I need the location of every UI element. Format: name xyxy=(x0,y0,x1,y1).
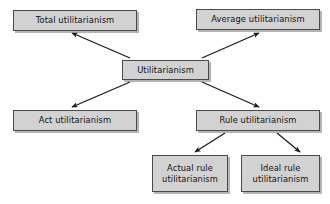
edge-utilitarianism-to-rule xyxy=(202,82,259,107)
node-average-utilitarianism[interactable]: Average utilitarianism xyxy=(196,9,320,30)
edge-rule-to-ideal-rule xyxy=(277,133,300,152)
node-label: Utilitarianism xyxy=(137,65,194,76)
node-ideal-rule-utilitarianism[interactable]: Ideal rule utilitarianism xyxy=(241,155,320,192)
node-utilitarianism[interactable]: Utilitarianism xyxy=(122,60,209,80)
node-label: Rule utilitarianism xyxy=(219,115,296,126)
edge-utilitarianism-to-average xyxy=(202,33,259,58)
node-label: Average utilitarianism xyxy=(211,14,304,25)
node-rule-utilitarianism[interactable]: Rule utilitarianism xyxy=(196,110,320,131)
node-act-utilitarianism[interactable]: Act utilitarianism xyxy=(13,110,137,131)
node-actual-rule-utilitarianism[interactable]: Actual rule utilitarianism xyxy=(152,155,228,192)
node-label: Act utilitarianism xyxy=(39,115,111,126)
node-total-utilitarianism[interactable]: Total utilitarianism xyxy=(13,10,137,31)
edge-rule-to-actual-rule xyxy=(195,133,225,152)
node-label: Actual rule utilitarianism xyxy=(162,163,218,185)
edge-utilitarianism-to-act xyxy=(72,82,130,107)
node-label: Ideal rule utilitarianism xyxy=(253,163,309,185)
node-label: Total utilitarianism xyxy=(36,15,115,26)
diagram-canvas: Total utilitarianism Average utilitarian… xyxy=(0,0,330,204)
edge-utilitarianism-to-total xyxy=(72,33,130,58)
